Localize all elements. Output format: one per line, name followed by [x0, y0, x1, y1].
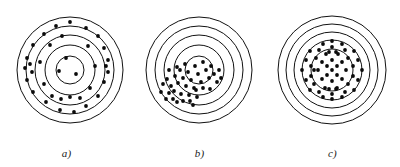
- shot-mark: [304, 58, 308, 62]
- shot-mark: [325, 64, 329, 68]
- shot-mark: [344, 68, 348, 72]
- shot-mark: [93, 64, 97, 68]
- shot-mark: [356, 58, 360, 62]
- shot-mark: [165, 77, 169, 81]
- shot-mark: [317, 90, 321, 94]
- shot-mark: [84, 104, 88, 108]
- shot-mark: [340, 42, 344, 46]
- shot-mark: [31, 90, 35, 94]
- target-ring-2: [26, 26, 114, 114]
- shot-mark: [58, 108, 62, 112]
- shot-mark: [330, 58, 334, 62]
- shot-mark: [106, 70, 110, 74]
- shot-mark: [201, 86, 205, 90]
- shot-mark: [304, 78, 308, 82]
- shot-mark: [57, 69, 61, 73]
- shot-mark: [327, 50, 331, 54]
- shot-mark: [300, 68, 304, 72]
- shot-mark: [68, 20, 72, 24]
- shot-mark: [183, 62, 187, 66]
- panel-caption-b: b): [133, 147, 266, 159]
- target-ring-4: [45, 45, 95, 95]
- shot-mark: [74, 72, 78, 76]
- shot-mark: [207, 76, 211, 80]
- shot-mark: [169, 84, 173, 88]
- shot-mark: [312, 82, 316, 86]
- shot-mark: [314, 56, 318, 60]
- shot-mark: [320, 60, 324, 64]
- shot-mark: [308, 49, 312, 53]
- shot-mark: [102, 46, 106, 50]
- shot-mark: [321, 95, 325, 99]
- shot-mark: [181, 76, 185, 80]
- shot-mark: [330, 45, 334, 49]
- shot-mark: [330, 97, 334, 101]
- shot-mark: [68, 95, 72, 99]
- shot-mark: [60, 34, 64, 38]
- shot-mark: [204, 68, 208, 72]
- shot-mark: [96, 34, 100, 38]
- shot-mark: [327, 87, 331, 91]
- shot-mark: [320, 77, 324, 81]
- shot-mark: [50, 94, 54, 98]
- shot-mark: [86, 44, 90, 48]
- shot-mark: [212, 72, 216, 76]
- shot-mark: [356, 78, 360, 82]
- shot-mark: [340, 77, 344, 81]
- shot-mark: [343, 90, 347, 94]
- shot-mark: [352, 88, 356, 92]
- shot-mark: [351, 74, 355, 78]
- shot-mark: [323, 86, 327, 90]
- shot-mark: [195, 95, 199, 99]
- shot-mark: [217, 68, 221, 72]
- shot-mark: [31, 43, 35, 47]
- shot-mark: [189, 78, 193, 82]
- shot-mark: [167, 68, 171, 72]
- shot-mark: [25, 78, 29, 82]
- shot-mark: [23, 66, 27, 70]
- shot-mark: [330, 92, 334, 96]
- shot-mark: [352, 49, 356, 53]
- target-diagram-b: [133, 0, 266, 167]
- shot-mark: [340, 60, 344, 64]
- shot-mark: [88, 86, 92, 90]
- shot-mark: [330, 79, 334, 83]
- shot-mark: [346, 56, 350, 60]
- shot-mark: [188, 99, 192, 103]
- target-figure: a) b) c): [0, 0, 400, 167]
- shot-mark: [167, 91, 171, 95]
- shot-mark: [208, 87, 212, 91]
- target-diagram-a: [0, 0, 133, 167]
- shot-mark: [334, 50, 338, 54]
- shot-mark: [325, 73, 329, 77]
- shot-mark: [172, 89, 176, 93]
- shot-mark: [346, 82, 350, 86]
- target-panel-c: c): [266, 0, 399, 167]
- target-ring-1: [146, 17, 252, 123]
- shot-mark: [330, 39, 334, 43]
- shot-mark: [334, 87, 338, 91]
- shot-mark: [321, 42, 325, 46]
- shot-mark: [309, 74, 313, 78]
- shot-mark: [201, 60, 205, 64]
- shot-mark: [30, 70, 34, 74]
- target-diagram-c: [266, 0, 399, 167]
- shot-mark: [219, 76, 223, 80]
- shot-mark: [191, 103, 195, 107]
- shot-mark: [215, 80, 219, 84]
- shot-mark: [184, 84, 188, 88]
- shot-mark: [179, 92, 183, 96]
- shot-mark: [193, 64, 197, 68]
- shot-mark: [102, 80, 106, 84]
- shot-mark: [42, 82, 46, 86]
- shot-mark: [44, 100, 48, 104]
- shot-mark: [186, 70, 190, 74]
- shot-mark: [194, 88, 198, 92]
- shot-mark: [173, 74, 177, 78]
- target-ring-1: [17, 17, 123, 123]
- shot-mark: [48, 43, 52, 47]
- shot-mark: [181, 99, 185, 103]
- shot-mark: [312, 68, 316, 72]
- shot-mark: [175, 100, 179, 104]
- shot-mark: [161, 82, 165, 86]
